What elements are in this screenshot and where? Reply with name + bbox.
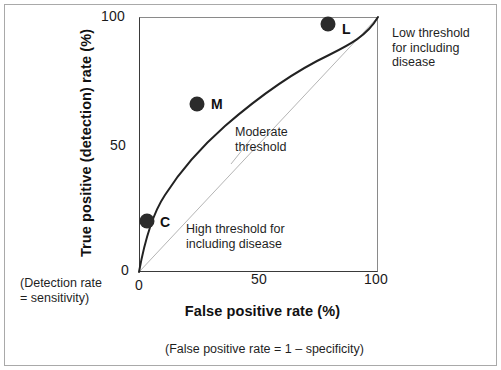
annotation-high-threshold: High threshold for including disease bbox=[186, 222, 304, 251]
roc-curve-figure: C M L 100 50 0 0 50 100 False positive r… bbox=[0, 0, 501, 370]
data-point-m[interactable] bbox=[190, 97, 205, 112]
x-axis-tick-100: 100 bbox=[364, 271, 388, 287]
annotation-low-threshold: Low threshold for including disease bbox=[392, 26, 496, 70]
data-point-l[interactable] bbox=[321, 17, 336, 32]
data-point-label-m: M bbox=[211, 96, 223, 112]
y-axis-tick-50: 50 bbox=[110, 137, 126, 153]
annotation-moderate-threshold: Moderate threshold bbox=[235, 125, 327, 154]
x-axis-tick-50: 50 bbox=[251, 271, 267, 287]
y-axis-tick-100: 100 bbox=[101, 8, 125, 24]
x-axis-tick-0: 0 bbox=[135, 277, 143, 293]
note-false-positive-specificity: (False positive rate = 1 – specificity) bbox=[0, 342, 501, 357]
y-axis-title: True positive (detection) rate (%) bbox=[78, 18, 94, 268]
note-detection-rate-sensitivity: (Detection rate = sensitivity) bbox=[20, 276, 136, 305]
data-point-label-l: L bbox=[342, 21, 351, 37]
data-point-label-c: C bbox=[160, 214, 170, 230]
x-axis-title: False positive rate (%) bbox=[0, 303, 501, 319]
data-point-c[interactable] bbox=[140, 214, 155, 229]
